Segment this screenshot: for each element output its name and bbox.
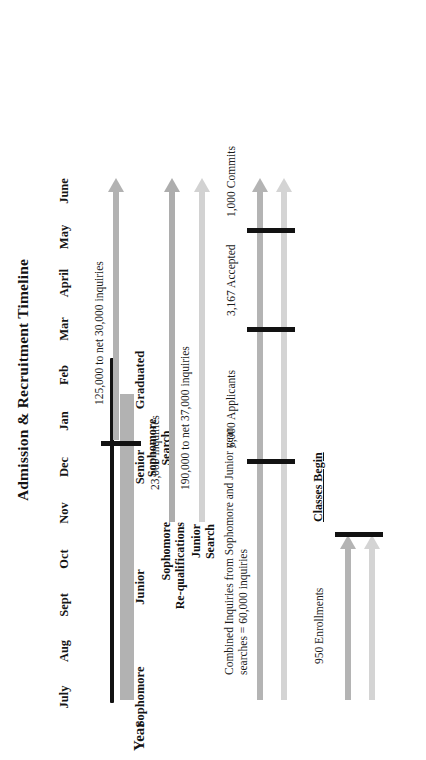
month-label-may: May xyxy=(57,225,72,249)
graduated-enrollment-arrow-head xyxy=(340,535,356,549)
classes-begin-label: Classes Begin xyxy=(312,402,326,522)
row-label-junior: Junior xyxy=(133,569,148,604)
month-label-june: June xyxy=(57,178,72,204)
junior-search-annotation: 190,000 to net 37,000 inquiries xyxy=(178,346,192,490)
page-title: Admission & Recruitment Timeline xyxy=(14,0,32,760)
month-label-nov: Nov xyxy=(57,502,72,524)
row-label-graduated: Graduated xyxy=(133,351,148,409)
sophomore-search-annotation: 125,000 to net 30,000 inquiries xyxy=(92,261,106,405)
sophomore-search-arrow-shaft xyxy=(113,190,119,440)
senior-secondary-arrow-shaft xyxy=(281,190,287,700)
junior-search-label: Junior Search xyxy=(190,524,218,596)
sophomore-requal-arrow-head xyxy=(164,178,180,192)
month-label-sept: Sept xyxy=(57,593,72,617)
graduated-enrollment-annotation: 950 Enrollments xyxy=(312,588,326,664)
month-label-aug: Aug xyxy=(57,640,72,662)
applicants-marker xyxy=(247,459,295,464)
timeline-figure: Admission & Recruitment Timeline July Au… xyxy=(0,0,426,760)
senior-secondary-arrow-head xyxy=(276,178,292,192)
sophomore-search-milestone xyxy=(101,441,141,446)
commits-marker xyxy=(247,228,295,233)
senior-combined-arrow-head xyxy=(252,178,268,192)
month-label-feb: Feb xyxy=(57,365,72,385)
month-label-april: April xyxy=(57,269,72,297)
row-label-sophomore: Sophomore xyxy=(133,667,148,728)
commits-marker-label: 1,000 Commits xyxy=(224,146,238,217)
month-label-july: July xyxy=(57,686,72,709)
senior-combined-arrow-shaft xyxy=(257,190,263,700)
classes-begin-milestone xyxy=(335,532,383,537)
month-label-jan: Jan xyxy=(57,411,72,430)
applicants-marker-label: 6,000 Applicants xyxy=(224,370,238,448)
sophomore-requal-arrow-shaft xyxy=(169,190,175,522)
month-label-mar: Mar xyxy=(57,317,72,341)
month-label-oct: Oct xyxy=(57,549,72,568)
sophomore-requal-annotation: 23,000 inquiries xyxy=(148,415,162,490)
month-label-dec: Dec xyxy=(57,457,72,477)
graduated-secondary-arrow-shaft xyxy=(369,547,375,700)
graduated-enrollment-arrow-shaft xyxy=(345,547,351,700)
junior-search-arrow-shaft xyxy=(199,190,205,522)
graduated-secondary-arrow-head xyxy=(364,535,380,549)
accepted-marker-label: 3,167 Accepted xyxy=(224,244,238,316)
accepted-marker xyxy=(247,327,295,332)
sophomore-search-arrow-head xyxy=(108,178,124,192)
sophomore-requal-label: Sophomore Re-qualifications xyxy=(160,522,188,610)
junior-search-arrow-head xyxy=(194,178,210,192)
